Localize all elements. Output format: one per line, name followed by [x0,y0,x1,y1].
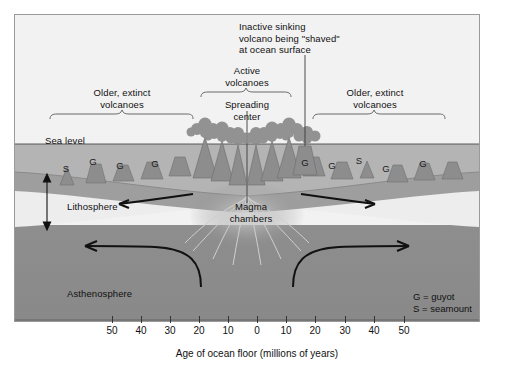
guyot-marker: G [298,157,312,168]
axis-tick [315,316,316,323]
axis-tick-label: 30 [158,325,182,336]
axis-tick-label: 40 [129,325,153,336]
axis-tick-label: 30 [333,325,357,336]
magma-chambers-label: Magma chambers [221,201,281,224]
seafloor-spreading-diagram [15,15,479,321]
axis-tick [199,316,200,323]
older-extinct-left-label: Older, extinct volcanoes [62,87,182,110]
axis-tick [286,316,287,323]
older-extinct-right-label: Older, extinct volcanoes [315,87,435,110]
axis-tick [374,316,375,323]
axis-tick-label: 50 [100,325,124,336]
axis-tick-label: 20 [303,325,327,336]
axis-tick-label: 10 [274,325,298,336]
figure-root: Sea level Lithosphere Magma chambers Ast… [0,0,514,375]
axis-tick [170,316,171,323]
inactive-volcano-label: Inactive sinking volcano being "shaved" … [239,21,340,56]
axis-tick [345,316,346,323]
axis-tick [404,316,405,323]
axis-tick [257,316,258,323]
guyot-marker: G [416,158,430,169]
magma-chambers-line1: Magma chambers [230,201,273,224]
lithosphere-label: Lithosphere [67,201,118,213]
spreading-center-label: Spreading center [206,99,288,122]
axis-tick-label: 10 [216,325,240,336]
diagram-frame: Sea level Lithosphere Magma chambers Ast… [14,14,480,322]
axis-tick [112,316,113,323]
axis-tick-label: 40 [362,325,386,336]
guyot-marker: G [148,158,162,169]
seamount-marker: S [59,163,73,174]
axis-tick [141,316,142,323]
asthenosphere-label: Asthenosphere [67,288,132,300]
axis-tick-label: 20 [187,325,211,336]
guyot-marker: G [325,160,339,171]
sea-level-label: Sea level [45,135,85,147]
guyot-marker: G [86,156,100,167]
axis-tick [228,316,229,323]
axis-title: Age of ocean floor (millions of years) [0,348,514,359]
legend-seamount: S = seamount [413,303,472,315]
axis-tick-label: 0 [245,325,269,336]
legend-guyot: G = guyot [413,291,454,303]
guyot-marker: G [379,163,393,174]
guyot-marker: G [113,160,127,171]
axis-tick-label: 50 [392,325,416,336]
active-volcanoes-label: Active volcanoes [206,65,288,88]
seamount-marker: S [352,155,366,166]
